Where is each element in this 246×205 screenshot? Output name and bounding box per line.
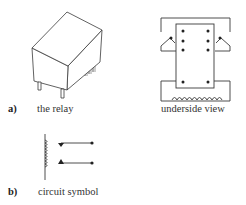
part-b-letter: b) <box>8 186 17 198</box>
relay-caption: the relay <box>37 103 73 115</box>
contact-arrow-down-icon <box>58 143 64 147</box>
symbol-caption: circuit symbol <box>38 186 98 198</box>
circuit-symbol-drawing <box>45 134 92 180</box>
relay-3d-drawing <box>32 12 102 98</box>
part-a-letter: a) <box>8 103 17 115</box>
circuit-symbol-contacts <box>58 141 94 164</box>
underside-view-drawing <box>161 18 230 101</box>
underside-caption: underside view <box>161 103 225 115</box>
contact-arrow-up-icon <box>58 159 64 164</box>
